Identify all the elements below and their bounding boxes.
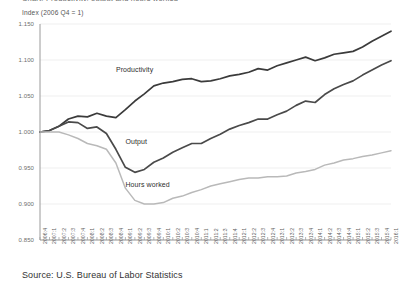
x-axis-tick-label: 2010:3	[184, 228, 190, 244]
source-caption: Source: U.S. Bureau of Labor Statistics	[22, 270, 182, 280]
x-axis-tick-label: 2015:4	[384, 228, 390, 244]
series-label-output: Output	[125, 138, 147, 145]
y-axis-tick-label: 0.900	[8, 201, 34, 207]
x-axis-tick-label: 2009:2	[137, 228, 143, 244]
x-axis-tick-label: 2007:3	[70, 228, 76, 244]
chart-root: Chart: Productivity, output and hours wo…	[0, 0, 403, 291]
y-axis-tick-label: 1.000	[8, 129, 34, 135]
x-axis-tick-label: 2006:4	[42, 228, 48, 244]
x-axis-tick-label: 2009:1	[127, 228, 133, 244]
y-axis-tick-label: 0.950	[8, 165, 34, 171]
series-label-hours-worked: Hours worked	[125, 181, 169, 188]
x-axis-tick-label: 2014:1	[317, 228, 323, 244]
y-axis-tick-label: 1.150	[8, 21, 34, 27]
x-axis-tick-label: 2007:1	[51, 228, 57, 244]
x-axis-tick-label: 2007:2	[61, 228, 67, 244]
x-axis-tick-label: 2013:3	[298, 228, 304, 244]
x-axis-tick-label: 2008:2	[99, 228, 105, 244]
x-axis-tick-label: 2010:2	[175, 228, 181, 244]
x-axis-tick-label: 2007:4	[80, 228, 86, 244]
x-axis-tick-label: 2013:4	[308, 228, 314, 244]
x-axis-tick-label: 2012:3	[260, 228, 266, 244]
x-axis-tick-label: 2014:3	[336, 228, 342, 244]
x-axis-tick-label: 2008:4	[118, 228, 124, 244]
x-axis-tick-label: 2014:4	[346, 228, 352, 244]
x-axis-tick-label: 2014:2	[327, 228, 333, 244]
x-axis-tick-label: 2012:2	[251, 228, 257, 244]
x-axis-tick-label: 2010:4	[194, 228, 200, 244]
x-axis-tick-label: 2015:2	[365, 228, 371, 244]
x-axis-tick-label: 2015:3	[374, 228, 380, 244]
x-axis-tick-label: 2010:1	[165, 228, 171, 244]
x-axis-tick-label: 2011:2	[213, 228, 219, 244]
x-axis-tick-label: 2016:1	[393, 228, 399, 244]
x-axis-tick-label: 2009:4	[156, 228, 162, 244]
x-axis-tick-label: 2008:1	[89, 228, 95, 244]
x-axis-tick-label: 2011:4	[232, 228, 238, 244]
x-axis-tick-label: 2012:1	[241, 228, 247, 244]
x-axis-tick-label: 2013:2	[289, 228, 295, 244]
x-axis-tick-label: 2009:3	[146, 228, 152, 244]
y-axis-tick-label: 1.050	[8, 93, 34, 99]
x-axis-tick-label: 2008:3	[108, 228, 114, 244]
x-axis-tick-label: 2012:4	[270, 228, 276, 244]
x-axis-tick-label: 2015:1	[355, 228, 361, 244]
y-axis-tick-label: 1.100	[8, 57, 34, 63]
y-axis-tick-label: 0.850	[8, 237, 34, 243]
x-axis-tick-label: 2013:1	[279, 228, 285, 244]
x-axis-tick-label: 2011:1	[203, 228, 209, 244]
plot-area	[0, 0, 403, 291]
x-axis-tick-label: 2011:3	[222, 228, 228, 244]
series-label-productivity: Productivity	[116, 66, 153, 73]
line-chart-svg	[0, 0, 403, 291]
